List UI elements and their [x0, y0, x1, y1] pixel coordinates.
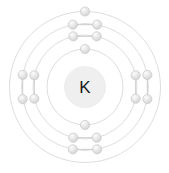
electron-e1-2 [80, 120, 89, 129]
element-symbol-label: K [79, 78, 91, 97]
electron-e3-6 [93, 145, 102, 154]
bohr-model-diagram: K [0, 0, 169, 173]
nucleus: K [65, 67, 106, 108]
electron-e2-6 [92, 133, 101, 142]
electron-e2-7 [131, 94, 140, 103]
electron-e4-1 [80, 7, 89, 16]
electron-e3-1 [93, 20, 102, 29]
electron-e1-1 [80, 44, 89, 53]
electron-e3-7 [143, 95, 152, 104]
electron-e2-5 [69, 133, 78, 142]
electron-e2-4 [30, 94, 39, 103]
electron-e3-4 [18, 95, 27, 104]
electron-e2-2 [69, 32, 78, 41]
electron-e3-3 [18, 70, 27, 79]
electron-e3-5 [68, 145, 77, 154]
atom-diagram-canvas: K [0, 0, 169, 173]
electron-e2-3 [30, 71, 39, 80]
electron-e2-1 [92, 32, 101, 41]
electron-e2-8 [131, 71, 140, 80]
electron-e3-2 [68, 20, 77, 29]
electron-e3-8 [143, 70, 152, 79]
